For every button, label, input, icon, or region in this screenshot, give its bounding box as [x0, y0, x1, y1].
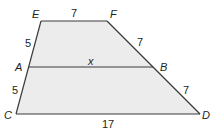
length-label-ac: 5: [12, 85, 18, 96]
length-label-bd: 7: [183, 85, 189, 96]
vertex-label-c: C: [4, 110, 12, 121]
length-label-ef: 7: [71, 8, 77, 19]
length-label-ea: 5: [25, 38, 31, 49]
vertex-label-b: B: [160, 62, 167, 73]
vertex-label-d: D: [202, 110, 210, 121]
length-label-cd: 17: [102, 119, 114, 130]
vertex-label-a: A: [15, 62, 22, 73]
trapezoid-diagram: E F A B C D 7 5 5 7 7 x 17: [0, 0, 215, 132]
vertex-label-f: F: [110, 9, 117, 20]
length-label-fb: 7: [137, 37, 143, 48]
length-label-ab-x: x: [88, 56, 94, 67]
vertex-label-e: E: [32, 9, 39, 20]
